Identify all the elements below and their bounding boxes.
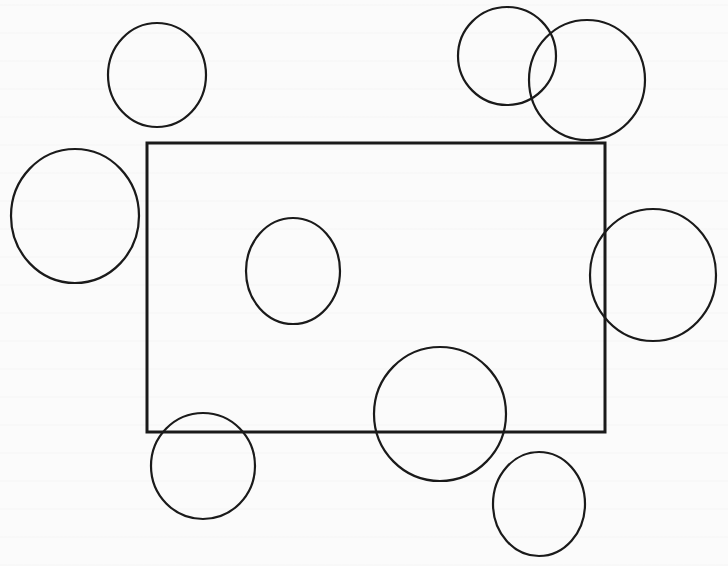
circle-top-right-b (529, 20, 645, 140)
central-rectangle (147, 143, 605, 432)
diagram-canvas (0, 0, 728, 566)
circle-inner (246, 218, 340, 324)
circle-top-left (108, 23, 206, 127)
circle-left (11, 149, 139, 283)
circle-bottom-left (151, 413, 255, 519)
circle-top-right-a (458, 7, 556, 105)
circle-right (590, 209, 716, 341)
circle-bottom-center (374, 347, 506, 481)
circle-bottom-right (493, 452, 585, 556)
